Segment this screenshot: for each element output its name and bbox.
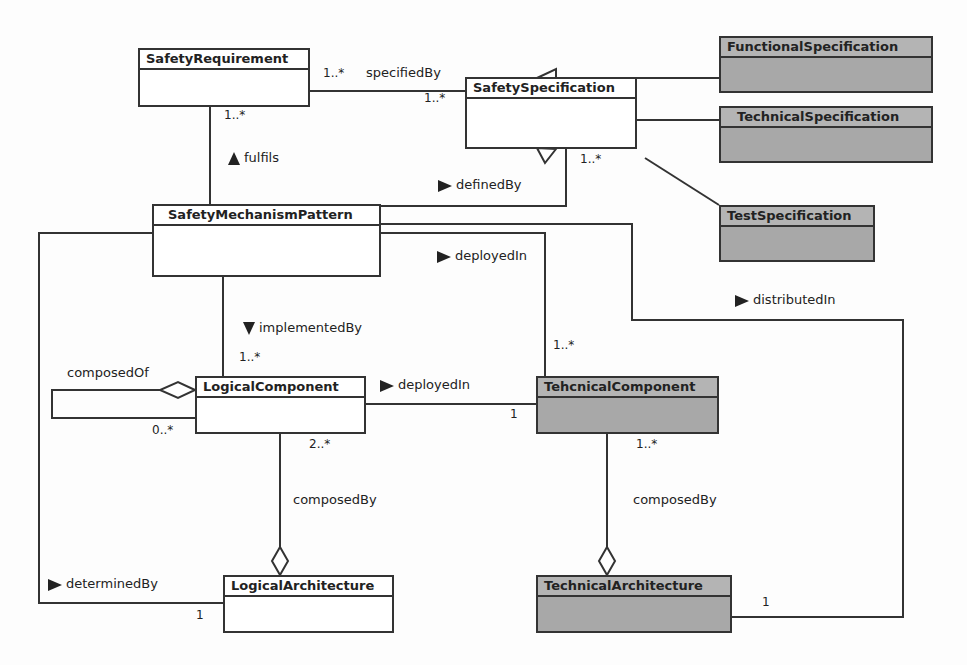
association-label-composed-by: composedBy xyxy=(633,493,717,507)
class-safety-requirement[interactable]: SafetyRequirement xyxy=(138,48,310,107)
association-label-composed-of: composedOf xyxy=(67,366,149,380)
class-name: SafetyRequirement xyxy=(140,50,308,70)
association-label-deployed-in: deployedIn xyxy=(437,249,527,263)
association-label-implemented-by: implementedBy xyxy=(243,321,362,335)
direction-up-icon xyxy=(228,152,240,165)
class-functional-specification[interactable]: FunctionalSpecification xyxy=(719,36,933,93)
association-label-fulfils: fulfils xyxy=(228,151,279,165)
class-name: SafetySpecification xyxy=(467,79,635,99)
class-technical-architecture[interactable]: TechnicalArchitecture xyxy=(536,575,732,633)
association-label-specified-by: specifiedBy xyxy=(366,66,441,80)
direction-right-icon xyxy=(380,380,394,392)
multiplicity-label: 1..* xyxy=(323,66,344,80)
direction-right-icon xyxy=(437,251,451,263)
direction-right-icon xyxy=(438,180,452,192)
gen-test-line xyxy=(645,158,719,205)
association-label-composed-by: composedBy xyxy=(293,493,377,507)
direction-right-icon xyxy=(48,579,62,591)
multiplicity-label: 1..* xyxy=(636,437,657,451)
class-name: TechnicalSpecification xyxy=(721,108,931,128)
direction-down-icon xyxy=(243,322,255,335)
class-technical-component[interactable]: TehcnicalComponent xyxy=(536,376,719,434)
class-name: LogicalArchitecture xyxy=(225,577,392,597)
multiplicity-label: 0..* xyxy=(152,423,173,437)
class-logical-architecture[interactable]: LogicalArchitecture xyxy=(223,575,394,633)
multiplicity-label: 1..* xyxy=(239,350,260,364)
multiplicity-label: 2..* xyxy=(309,437,330,451)
class-name: TehcnicalComponent xyxy=(538,378,717,398)
association-label-defined-by: definedBy xyxy=(438,178,522,192)
class-name: TechnicalArchitecture xyxy=(538,577,730,597)
aggregation-diamond-icon xyxy=(160,382,195,398)
class-logical-component[interactable]: LogicalComponent xyxy=(195,376,366,434)
aggregation-diamond-icon xyxy=(599,547,615,575)
generalization-arrow-icon xyxy=(537,148,556,163)
direction-right-icon xyxy=(735,295,749,307)
class-technical-specification[interactable]: TechnicalSpecification xyxy=(719,106,933,163)
multiplicity-label: 1 xyxy=(762,595,770,609)
class-name: LogicalComponent xyxy=(197,378,364,398)
multiplicity-label: 1..* xyxy=(424,91,445,105)
multiplicity-label: 1..* xyxy=(224,108,245,122)
class-safety-specification[interactable]: SafetySpecification xyxy=(465,77,637,149)
multiplicity-label: 1..* xyxy=(580,152,601,166)
association-label-deployed-in: deployedIn xyxy=(380,378,470,392)
association-label-determined-by: determinedBy xyxy=(48,577,158,591)
multiplicity-label: 1 xyxy=(196,608,204,622)
aggregation-diamond-icon xyxy=(272,547,288,575)
uml-class-diagram: SafetyRequirement SafetySpecification Fu… xyxy=(0,0,967,665)
association-label-distributed-in: distributedIn xyxy=(735,293,836,307)
class-name: FunctionalSpecification xyxy=(721,38,931,58)
class-name: TestSpecification xyxy=(721,207,873,227)
class-safety-mechanism-pattern[interactable]: SafetyMechanismPattern xyxy=(152,204,381,277)
class-test-specification[interactable]: TestSpecification xyxy=(719,205,875,262)
multiplicity-label: 1 xyxy=(510,407,518,421)
class-name: SafetyMechanismPattern xyxy=(154,206,379,226)
multiplicity-label: 1..* xyxy=(553,338,574,352)
